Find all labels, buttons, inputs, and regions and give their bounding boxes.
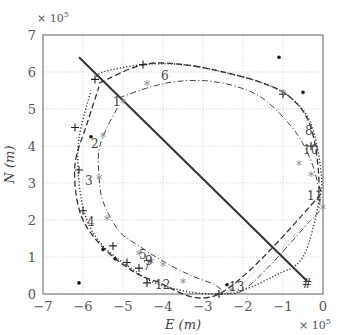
x-tick-label: −1 [273,299,292,314]
dot-marker [301,91,305,95]
point-annotation: 8 [305,124,313,138]
plus-marker [215,290,223,298]
dot-marker [113,257,117,261]
plus-marker [135,264,143,272]
point-annotation: 9 [145,254,153,268]
x-tick-label: 0 [319,299,327,314]
star-marker: * [308,170,314,184]
plus-marker [139,61,147,69]
star-marker: * [100,131,106,145]
x-multiplier: × 105 [299,317,331,332]
star-marker: * [96,173,102,187]
plus-marker [71,124,79,132]
point-annotation: 11 [307,189,322,203]
x-tick-label: −6 [73,299,92,314]
dot-marker [101,248,105,252]
point-annotation: 13 [229,280,244,294]
x-tick-label: −4 [153,299,172,314]
y-tick-label: 4 [28,139,36,154]
orbit-chart: −7−6−5−4−3−2−1001234567× 105× 105E (m)N … [0,0,343,335]
star-marker: * [120,97,126,111]
y-tick-label: 2 [28,213,36,228]
star-marker: * [160,260,166,274]
x-tick-label: −7 [33,299,52,314]
x-tick-label: −5 [113,299,132,314]
y-tick-label: 5 [28,102,36,117]
star-marker: * [144,79,150,93]
y-tick-label: 0 [28,287,36,302]
y-axis-label: N (m) [2,146,17,185]
point-annotation: 6 [161,69,169,83]
star-marker: * [280,88,286,102]
x-axis-label: E (m) [164,317,201,332]
y-multiplier: × 105 [37,10,69,25]
point-annotation: 2 [91,137,99,151]
x-tick-label: −2 [233,299,252,314]
star-marker: * [104,214,110,228]
plus-marker [109,242,117,250]
point-annotation: 10 [303,143,318,157]
dot-marker [277,55,281,59]
point-annotation: 4 [87,215,95,229]
point-annotation: 3 [85,174,93,188]
star-marker: * [320,203,326,217]
y-tick-label: 3 [28,176,36,191]
x-tick-label: −3 [193,299,212,314]
dot-marker [77,281,81,285]
y-tick-label: 1 [28,250,36,265]
hash-marker: # [302,277,312,291]
point-annotation: 1 [113,95,121,109]
plus-marker [75,166,83,174]
plus-marker [79,207,87,215]
star-marker: * [180,277,186,291]
y-tick-label: 7 [28,28,36,43]
star-marker: * [296,159,302,173]
y-tick-label: 6 [28,65,36,80]
point-annotation: 12 [155,278,170,292]
